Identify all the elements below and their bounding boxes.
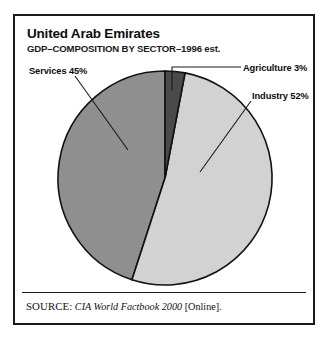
source-suffix: [Online].: [185, 301, 222, 312]
slice-label-agriculture: Agriculture 3%: [243, 63, 307, 73]
source-note: SOURCE: CIA World Factbook 2000 [Online]…: [26, 300, 222, 312]
slice-label-industry: Industry 52%: [252, 91, 309, 101]
source-divider: [22, 292, 306, 293]
source-label: SOURCE:: [26, 300, 72, 312]
slice-label-services: Services 45%: [29, 66, 87, 76]
pie-chart: [0, 0, 329, 341]
source-work-title: CIA World Factbook 2000: [75, 301, 182, 312]
